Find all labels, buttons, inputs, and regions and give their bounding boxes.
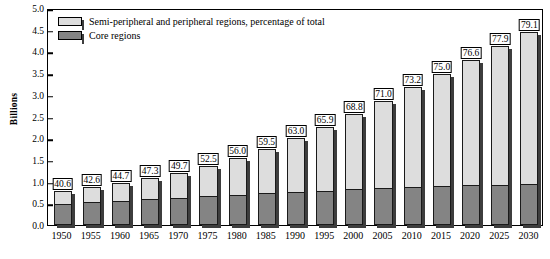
bar-segment-core[interactable] [375,188,391,224]
bar-group[interactable]: 79.1 [520,32,538,225]
bar-group[interactable]: 52.5 [199,166,217,225]
bar-value-label: 68.8 [344,101,365,113]
bar-shadow-bottom [86,225,104,228]
y-axis-tick-mark [48,118,53,120]
bar-shadow [451,77,454,228]
y-axis-tick-mark [48,31,53,33]
bar-segment-core[interactable] [492,185,508,224]
bar-shadow-bottom [377,225,395,228]
x-axis-tick-label: 1970 [168,230,188,241]
x-axis-tick-label: 2000 [343,230,363,241]
bar-group[interactable]: 68.8 [345,114,363,225]
bar-segment-peripheral[interactable] [287,138,305,225]
bar-group[interactable]: 56.0 [229,158,247,225]
bar-group[interactable]: 40.6 [54,191,72,225]
bar-shadow [130,186,133,228]
bar-shadow-bottom [202,225,220,228]
bar-segment-core[interactable] [84,202,100,224]
bar-group[interactable]: 76.6 [462,60,480,225]
x-axis-tick-label: 1950 [52,230,72,241]
bar-segment-peripheral[interactable] [170,173,188,226]
bar-value-label: 42.6 [81,174,102,186]
bar-segment-core[interactable] [405,187,421,224]
bar-segment-peripheral[interactable] [112,183,130,225]
legend-label-peripheral: Semi-peripheral and peripheral regions, … [89,16,325,27]
x-axis-tick-label: 2025 [489,230,509,241]
y-axis-tick-label: 2.0 [14,134,44,144]
bar-segment-core[interactable] [200,196,216,224]
bar-shadow [422,90,425,228]
bar-segment-peripheral[interactable] [258,149,276,225]
bar-segment-peripheral[interactable] [141,178,159,225]
bar-shadow-bottom [319,225,337,228]
y-axis-tick-mark [48,9,53,11]
legend-swatch-peripheral-icon [58,17,82,26]
bar-segment-peripheral[interactable] [83,187,101,225]
bar-shadow [363,117,366,228]
bar-segment-core[interactable] [317,191,333,224]
bar-segment-peripheral[interactable] [404,87,422,225]
bar-shadow [393,104,396,228]
y-axis-tick-label: 3.5 [14,69,44,79]
bar-segment-peripheral[interactable] [229,158,247,225]
y-axis-tick-mark [48,96,53,98]
bar-group[interactable]: 71.0 [374,101,392,225]
bar-segment-core[interactable] [259,193,275,224]
bar-segment-peripheral[interactable] [520,32,538,225]
bar-shadow [72,194,75,228]
bar-group[interactable]: 73.2 [404,87,422,225]
bar-segment-core[interactable] [463,185,479,224]
bar-segment-peripheral[interactable] [345,114,363,225]
bar-group[interactable]: 63.0 [287,138,305,225]
bar-shadow-bottom [115,225,133,228]
bar-value-label: 59.5 [256,136,277,148]
y-axis-tick-label: 1.5 [14,156,44,166]
bar-segment-core[interactable] [434,186,450,224]
legend-item-peripheral: Semi-peripheral and peripheral regions, … [58,15,325,28]
bar-segment-core[interactable] [171,198,187,224]
bar-segment-peripheral[interactable] [462,60,480,225]
bar-segment-peripheral[interactable] [491,46,509,225]
bar-value-label: 79.1 [519,19,540,31]
bar-group[interactable]: 59.5 [258,149,276,225]
bar-segment-peripheral[interactable] [316,127,334,225]
bar-shadow [218,169,221,228]
bar-shadow-bottom [144,225,162,228]
bar-segment-core[interactable] [113,201,129,224]
bar-segment-core[interactable] [521,184,537,224]
x-axis-tick-label: 1995 [314,230,334,241]
bar-group[interactable]: 44.7 [112,183,130,225]
bar-shadow-bottom [465,225,483,228]
bar-shadow [188,176,191,229]
bar-group[interactable]: 75.0 [433,74,451,225]
y-axis-tick-labels: 0.00.51.01.52.02.53.03.54.04.55.0 [14,0,44,259]
y-axis-tick-label: 5.0 [14,4,44,14]
bar-shadow [509,49,512,228]
x-axis-tick-label: 1965 [139,230,159,241]
y-axis-tick-label: 1.0 [14,178,44,188]
y-axis-tick-label: 2.5 [14,113,44,123]
bar-segment-peripheral[interactable] [54,191,72,225]
bar-group[interactable]: 47.3 [141,178,159,225]
bar-shadow-bottom [494,225,512,228]
bar-segment-peripheral[interactable] [433,74,451,225]
x-axis-tick-labels: 1950195519601965197019751980198519901995… [47,230,543,246]
bar-segment-core[interactable] [288,192,304,224]
bar-group[interactable]: 65.9 [316,127,334,225]
bar-shadow-bottom [57,225,75,228]
bar-shadow-bottom [436,225,454,228]
bar-shadow [480,63,483,228]
bar-segment-core[interactable] [346,189,362,224]
bar-shadow [276,152,279,228]
bar-segment-core[interactable] [230,195,246,225]
x-axis-tick-label: 2020 [460,230,480,241]
y-axis-tick-mark [48,139,53,141]
bar-group[interactable]: 42.6 [83,187,101,225]
bar-segment-peripheral[interactable] [199,166,217,225]
bar-segment-peripheral[interactable] [374,101,392,225]
bar-segment-core[interactable] [142,199,158,224]
x-axis-tick-label: 1990 [285,230,305,241]
bar-group[interactable]: 77.9 [491,46,509,225]
bar-segment-core[interactable] [55,204,71,224]
bar-group[interactable]: 49.7 [170,173,188,226]
